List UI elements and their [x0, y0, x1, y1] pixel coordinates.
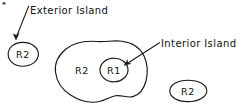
exterior-island-arrowhead	[13, 32, 20, 40]
island-regions-diagram: Exterior Island Interior Island R2 R2 R1…	[0, 0, 241, 111]
exterior-island-leader-line	[17, 6, 29, 36]
scan-artifact-speck	[3, 2, 6, 4]
region-label-exterior-island-left: R2	[16, 49, 30, 60]
exterior-island-label: Exterior Island	[30, 5, 108, 16]
region-label-interior-island: R1	[107, 65, 121, 76]
interior-island-leader-arrow	[124, 43, 160, 66]
diagram-canvas: Exterior Island Interior Island R2 R2 R1…	[0, 0, 241, 111]
exterior-island-leader-arrow	[13, 6, 29, 40]
outer-blob-outline	[55, 41, 147, 102]
region-label-exterior-island-right: R2	[181, 86, 195, 97]
interior-island-label: Interior Island	[161, 38, 236, 49]
interior-island-leader-line	[128, 43, 160, 63]
region-label-outer-blob: R2	[75, 65, 89, 76]
